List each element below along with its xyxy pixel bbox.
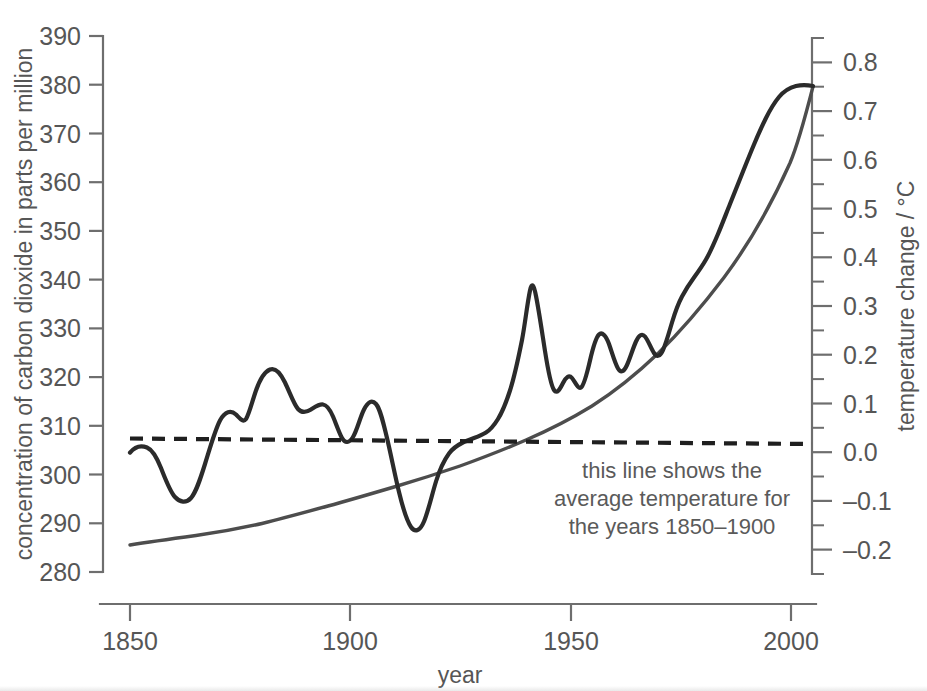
right-ticklabel-0.7: 0.7	[843, 97, 878, 125]
x-ticklabel-2000: 2000	[763, 627, 819, 655]
x-ticklabel-1950: 1950	[543, 627, 599, 655]
chart-figure: 390 380 370 360 350 340 330 320 310 300 …	[0, 0, 927, 691]
left-ticklabel-340: 340	[39, 266, 81, 294]
x-ticklabel-1850: 1850	[102, 627, 158, 655]
right-ticklabel-0.3: 0.3	[843, 292, 878, 320]
climate-line-chart: 390 380 370 360 350 340 330 320 310 300 …	[0, 0, 927, 691]
left-ticklabel-310: 310	[39, 412, 81, 440]
left-ticklabel-330: 330	[39, 314, 81, 342]
right-ticklabel-0.8: 0.8	[843, 48, 878, 76]
left-axis-title: concentration of carbon dioxide in parts…	[11, 48, 37, 561]
left-y-axis: 390 380 370 360 350 340 330 320 310 300 …	[11, 22, 103, 586]
left-ticklabel-280: 280	[39, 558, 81, 586]
left-ticklabel-320: 320	[39, 363, 81, 391]
page-edge-strip	[0, 686, 927, 691]
right-ticklabel-0.4: 0.4	[843, 243, 878, 271]
left-ticklabel-390: 390	[39, 22, 81, 50]
right-ticklabel-0.0: 0.0	[843, 438, 878, 466]
left-ticklabel-370: 370	[39, 120, 81, 148]
baseline-average-temperature-line	[130, 439, 812, 445]
left-ticklabel-300: 300	[39, 461, 81, 489]
left-ticklabel-290: 290	[39, 509, 81, 537]
left-ticklabel-350: 350	[39, 217, 81, 245]
left-ticklabel-380: 380	[39, 71, 81, 99]
right-axis-title: temperature change / °C	[893, 181, 919, 432]
right-ticklabel-0.2: 0.2	[843, 341, 878, 369]
annotation-line-1: this line shows the	[582, 458, 762, 483]
right-ticklabel--0.1: –0.1	[843, 487, 892, 515]
annotation-line-3: the years 1850–1900	[569, 514, 776, 539]
baseline-annotation: this line shows the average temperature …	[554, 458, 790, 539]
right-ticklabel-0.1: 0.1	[843, 390, 878, 418]
right-ticklabel-0.5: 0.5	[843, 195, 878, 223]
left-ticklabel-360: 360	[39, 168, 81, 196]
right-ticklabel-0.6: 0.6	[843, 146, 878, 174]
x-ticklabel-1900: 1900	[322, 627, 378, 655]
annotation-line-2: average temperature for	[554, 486, 790, 511]
right-ticklabel--0.2: –0.2	[843, 536, 892, 564]
right-y-axis: 0.8 0.7 0.6 0.5 0.4 0.3 0.2 0.1 0.0 –0.1…	[812, 38, 919, 574]
x-axis: 1850 1900 1950 2000 year	[100, 604, 819, 688]
x-axis-title: year	[438, 662, 483, 688]
